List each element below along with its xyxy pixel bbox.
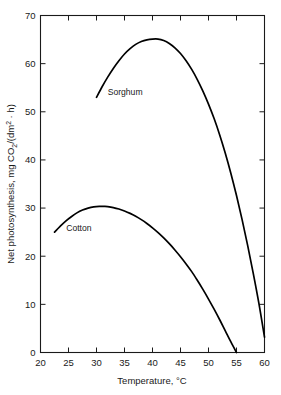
y-axis-title-suffix: · h) — [5, 104, 16, 121]
y-tick-label-40: 40 — [25, 154, 36, 165]
y-tick-label-70: 70 — [25, 10, 36, 21]
y-tick-label-20: 20 — [25, 251, 36, 262]
x-tick-label-55: 55 — [231, 357, 242, 368]
x-axis-title: Temperature, °C — [117, 375, 186, 386]
x-tick-label-25: 25 — [63, 357, 74, 368]
plot-frame — [41, 16, 265, 353]
x-tick-label-35: 35 — [119, 357, 130, 368]
y-tick-label-50: 50 — [25, 106, 36, 117]
x-tick-label-60: 60 — [259, 357, 270, 368]
y-tick-label-60: 60 — [25, 58, 36, 69]
series-label-cotton: Cotton — [66, 223, 92, 233]
x-tick-label-20: 20 — [35, 357, 46, 368]
x-tick-label-30: 30 — [91, 357, 102, 368]
x-axis-tick-labels: 202530354045505560 — [35, 357, 270, 368]
y-tick-label-10: 10 — [25, 299, 36, 310]
y-axis-tick-labels: 010203040506070 — [25, 10, 36, 358]
data-series-group — [55, 39, 265, 353]
y-axis-ticks — [41, 16, 265, 353]
x-tick-label-40: 40 — [147, 357, 158, 368]
curve-sorghum — [97, 39, 265, 337]
line-chart: 202530354045505560 010203040506070 Sorgh… — [0, 0, 281, 395]
x-tick-label-45: 45 — [175, 357, 186, 368]
figure-container: 202530354045505560 010203040506070 Sorgh… — [0, 0, 281, 395]
y-tick-label-0: 0 — [30, 347, 35, 358]
x-axis-ticks — [41, 16, 265, 353]
x-tick-label-50: 50 — [203, 357, 214, 368]
y-axis-title: Net photosynthesis, mg CO2/(dm2 · h) — [5, 104, 18, 264]
y-axis-title-mid: /(dm — [5, 125, 16, 144]
series-label-sorghum: Sorghum — [108, 87, 143, 97]
y-tick-label-30: 30 — [25, 202, 36, 213]
y-axis-title-prefix: Net photosynthesis, mg CO — [5, 148, 16, 264]
series-label-group: SorghumCotton — [66, 87, 142, 233]
